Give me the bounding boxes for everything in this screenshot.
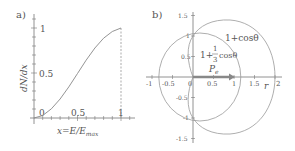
panel-a-xlabel-sub: max [86,130,99,137]
limacon-label-frac-den: 3 [213,56,217,64]
panel-b-label: b) [152,9,162,20]
panel-b-ytick-0.5: 0.5 [181,53,191,60]
panel-b-r-label: r [264,81,269,91]
panel-a-ytick-1: 1 [40,24,46,34]
panel-b-ytick-1.5: 1.5 [178,12,188,19]
panel-b-pe-label: Pe [208,64,219,75]
panel-b-xtick-1: 1 [232,80,236,88]
panel-b-xtick-0.5: 0.5 [207,80,217,88]
panel-b-xtick--0.5: -0.5 [162,80,175,88]
panel-b-xtick-1.5: 1.5 [249,80,259,88]
panel-b-limacon-label: 1+ 1 3 cosθ [200,45,237,64]
panel-a-xtick-0.5: 0.5 [71,108,86,118]
panel-b-xtick-2: 2 [276,80,280,88]
limacon-label-frac-num: 1 [213,45,217,53]
panel-b-ytick--1.5: -1.5 [176,135,188,142]
limacon-label-prefix: 1+ [200,50,213,60]
panel-b: b) -1 -0.5 0 0.5 1 1.5 2 [146,9,282,143]
panel-b-ytick--0.5: -0.5 [176,94,188,101]
pe-label-sub: e [215,68,219,75]
limacon-label-suffix: cosθ [219,51,237,60]
panel-a-xlabel: x=E/Emax [57,126,99,137]
panel-a-ytick-0.5: 0.5 [39,69,54,79]
panel-a-label: a) [16,9,26,20]
panel-a: a) [16,9,135,137]
panel-b-xtick--1: -1 [146,80,152,88]
panel-a-xlabel-main: x=E/E [57,126,86,136]
panel-b-cardioid-label: 1+cosθ [225,33,259,43]
figure: a) [0,0,295,151]
panel-a-ylabel: dN/dx [19,64,29,92]
